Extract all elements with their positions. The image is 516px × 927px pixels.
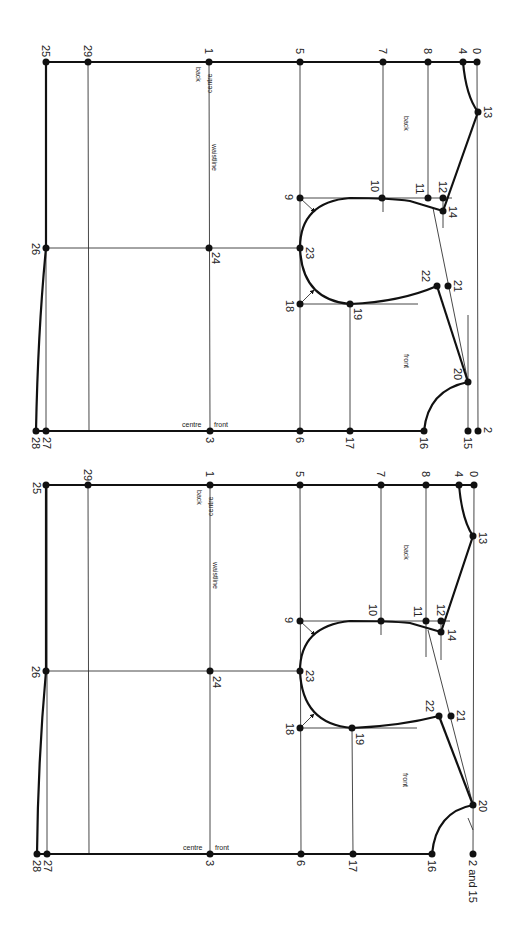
label-back: back xyxy=(403,545,410,560)
label-centre-front-2: front xyxy=(215,844,229,851)
label-centre-front-1: centre xyxy=(182,421,202,428)
label-12: 12 xyxy=(435,604,447,616)
label-10: 10 xyxy=(367,604,379,616)
label-25: 25 xyxy=(31,482,43,494)
label-0: 0 xyxy=(468,471,480,477)
label-3: 3 xyxy=(204,860,216,866)
label-centre-back-2: back xyxy=(196,490,203,505)
label-23: 23 xyxy=(304,247,316,259)
label-13: 13 xyxy=(482,106,494,118)
label-waistline: waistline xyxy=(211,143,218,171)
label-28: 28 xyxy=(31,860,43,872)
label-24: 24 xyxy=(211,676,223,688)
label-2: 2 xyxy=(482,427,494,433)
label-27: 27 xyxy=(41,437,53,449)
label-8: 8 xyxy=(422,48,434,54)
label-centre-front-2: front xyxy=(214,421,228,428)
label-24: 24 xyxy=(210,252,222,264)
label-1: 1 xyxy=(203,48,215,54)
label-centre-back-1: centre xyxy=(206,73,213,93)
label-front: front xyxy=(403,354,410,368)
label-17: 17 xyxy=(347,860,359,872)
label-6: 6 xyxy=(295,860,307,866)
label-0: 0 xyxy=(471,48,483,54)
label-15: 15 xyxy=(462,437,474,449)
label-29: 29 xyxy=(82,469,94,481)
label-20: 20 xyxy=(452,368,464,380)
label-7: 7 xyxy=(377,48,389,54)
draft-1: 25 29 1 5 7 8 4 0 13 9 10 11 12 14 26 24… xyxy=(30,45,494,449)
label-9: 9 xyxy=(283,617,295,623)
label-6: 6 xyxy=(294,437,306,443)
label-4: 4 xyxy=(453,471,465,477)
label-centre-back-2: back xyxy=(195,67,202,82)
label-23: 23 xyxy=(304,670,316,682)
label-14: 14 xyxy=(446,629,458,641)
points xyxy=(33,59,482,435)
label-22: 22 xyxy=(424,700,436,712)
label-29: 29 xyxy=(82,45,94,57)
draft-2: 25 29 1 5 7 8 4 0 13 9 10 11 12 14 26 24… xyxy=(30,469,489,903)
region-labels: back front waistline centre back centre … xyxy=(182,67,410,428)
label-4: 4 xyxy=(457,48,469,54)
label-2-and-15: 2 and 15 xyxy=(467,860,479,903)
region-labels: back front waistline centre back centre … xyxy=(183,490,410,851)
label-waistline: waistline xyxy=(212,561,219,589)
label-back: back xyxy=(403,116,410,131)
label-3: 3 xyxy=(204,437,216,443)
label-8: 8 xyxy=(420,471,432,477)
label-front: front xyxy=(402,773,409,787)
label-27: 27 xyxy=(42,860,54,872)
label-7: 7 xyxy=(375,471,387,477)
label-26: 26 xyxy=(30,243,42,255)
label-20: 20 xyxy=(477,800,489,812)
points xyxy=(34,482,478,858)
label-19: 19 xyxy=(354,733,366,745)
label-1: 1 xyxy=(204,471,216,477)
label-21: 21 xyxy=(452,280,464,292)
label-26: 26 xyxy=(30,666,42,678)
label-10: 10 xyxy=(369,180,381,192)
label-5: 5 xyxy=(294,48,306,54)
pattern-diagram: 25 29 1 5 7 8 4 0 13 9 10 11 12 14 26 24… xyxy=(0,0,516,927)
pattern-outline xyxy=(37,485,474,854)
label-21: 21 xyxy=(455,710,467,722)
label-centre-back-1: centre xyxy=(207,496,214,516)
point-labels: 25 29 1 5 7 8 4 0 13 9 10 11 12 14 26 24… xyxy=(30,469,489,903)
label-11: 11 xyxy=(414,183,426,194)
construction-lines xyxy=(46,62,478,431)
construction-lines xyxy=(46,485,474,854)
label-25: 25 xyxy=(40,45,52,57)
label-16: 16 xyxy=(426,860,438,872)
label-16: 16 xyxy=(418,437,430,449)
label-17: 17 xyxy=(344,437,356,449)
label-22: 22 xyxy=(420,270,432,282)
label-18: 18 xyxy=(284,300,296,312)
label-5: 5 xyxy=(294,471,306,477)
label-centre-front-1: centre xyxy=(183,844,203,851)
pattern-outline xyxy=(36,62,478,431)
label-9: 9 xyxy=(283,194,295,200)
label-18: 18 xyxy=(284,723,296,735)
point-labels: 25 29 1 5 7 8 4 0 13 9 10 11 12 14 26 24… xyxy=(30,45,494,449)
label-12: 12 xyxy=(437,181,449,193)
label-28: 28 xyxy=(30,437,42,449)
label-13: 13 xyxy=(477,532,489,544)
label-14: 14 xyxy=(447,206,459,218)
label-19: 19 xyxy=(352,308,364,320)
label-11: 11 xyxy=(412,606,424,617)
